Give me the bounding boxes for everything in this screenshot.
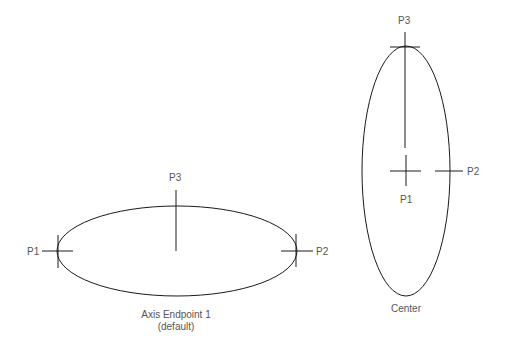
- p1-marker-icon: [390, 155, 421, 186]
- caption-line-2: (default): [158, 321, 195, 332]
- p1-label: P1: [27, 246, 40, 257]
- diagram-canvas: P1 P2 P3 Axis Endpoint 1 (default) P3: [0, 0, 510, 348]
- caption-line-1: Axis Endpoint 1: [141, 309, 211, 320]
- p3-label: P3: [169, 172, 182, 183]
- horizontal-ellipse: [57, 206, 297, 296]
- p1-marker-icon: [42, 235, 73, 268]
- caption-line-1: Center: [391, 303, 422, 314]
- p2-marker-icon: [281, 234, 313, 267]
- figure-center: P3 P1 P2 Center: [362, 15, 480, 314]
- p2-label: P2: [467, 166, 480, 177]
- figure-axis-endpoint: P1 P2 P3 Axis Endpoint 1 (default): [27, 172, 329, 332]
- p1-label: P1: [400, 194, 413, 205]
- p3-label: P3: [398, 15, 411, 26]
- p2-label: P2: [316, 246, 329, 257]
